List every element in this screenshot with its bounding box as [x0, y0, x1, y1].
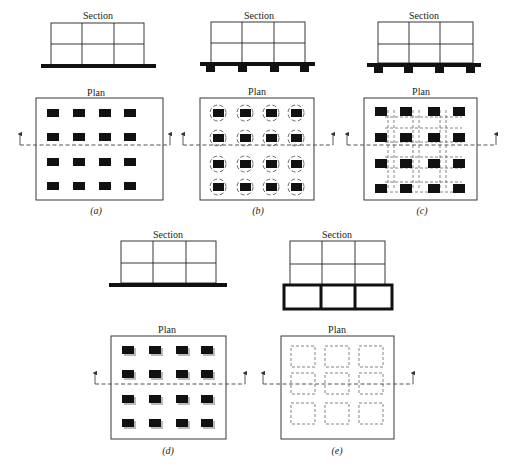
panel-label-e: (e) [331, 445, 343, 457]
strip-footing-a [41, 64, 156, 68]
section-title-b: Section [244, 10, 274, 21]
grade-beams-plan-c [385, 110, 462, 192]
panel-c: Section Plan [347, 10, 496, 217]
section-title-e: Section [322, 229, 352, 240]
plan-outline-e [281, 336, 394, 439]
cellular-raft-e [284, 285, 392, 309]
panel-d: Section Plan [95, 229, 245, 457]
plan-title-a: Plan [87, 87, 105, 98]
footing-pads-c [375, 107, 465, 193]
plan-title-d: Plan [158, 324, 176, 335]
column-pads-d [122, 346, 215, 429]
panel-label-a: (a) [90, 205, 102, 217]
section-frame-b [211, 22, 305, 63]
panel-b: Section Plan [183, 10, 333, 217]
section-frame-c [378, 22, 473, 63]
section-cut-line-e [263, 373, 413, 384]
section-frame-a [51, 23, 144, 65]
pile-caps-b [210, 105, 304, 195]
section-cut-line-d [95, 373, 245, 384]
plan-title-c: Plan [412, 86, 430, 97]
plan-title-b: Plan [248, 86, 266, 97]
panel-a: Section Plan (a) [20, 10, 170, 217]
footing-pads-a [47, 109, 136, 190]
pile-cap-beam-b [200, 62, 315, 66]
foundation-diagram: Section Plan (a) Section [0, 0, 512, 471]
section-frame-e [290, 241, 385, 285]
panel-label-c: (c) [416, 205, 428, 217]
section-title-d: Section [153, 229, 183, 240]
section-cut-line-c [347, 134, 496, 145]
mat-slab-d [109, 283, 227, 287]
cells-plan-e [291, 346, 383, 424]
panel-label-b: (b) [252, 205, 264, 217]
section-cut-line-a [20, 134, 170, 145]
piles-section-b [206, 66, 309, 72]
section-title-c: Section [409, 10, 439, 21]
panel-label-d: (d) [162, 445, 174, 457]
panel-e: Section Plan ( [263, 229, 413, 457]
section-title-a: Section [83, 10, 113, 21]
grade-beam-c [367, 63, 481, 67]
plan-title-e: Plan [328, 324, 346, 335]
section-frame-d [121, 241, 216, 283]
section-cut-line-b [183, 134, 333, 145]
footings-section-c [374, 67, 475, 73]
